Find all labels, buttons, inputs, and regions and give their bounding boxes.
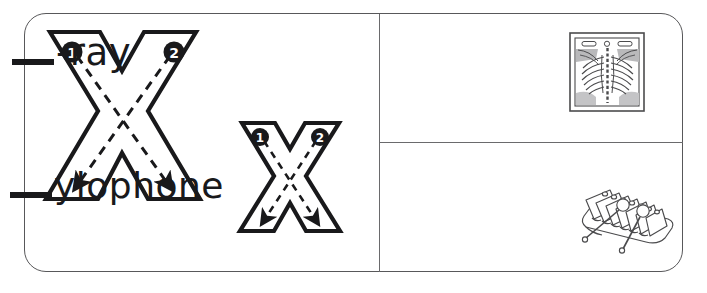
lowercase-stroke-2-marker: 2: [311, 128, 329, 146]
xray-blank-line[interactable]: [12, 59, 54, 65]
xray-word-row: -ray: [12, 34, 131, 71]
xylophone-blank-line[interactable]: [10, 192, 52, 198]
xylophone-word-row: ylophone: [10, 168, 224, 204]
uppercase-stroke-2-marker: 2: [164, 42, 185, 63]
xylophone-word-text: ylophone: [54, 168, 224, 204]
lowercase-stroke-1-number: 1: [256, 131, 264, 145]
worksheet-page: 1 2 1 2: [0, 0, 707, 293]
xylophone-icon: [572, 172, 678, 258]
uppercase-stroke-2-number: 2: [169, 45, 179, 61]
xray-film-icon: [568, 31, 648, 119]
lowercase-stroke-1-marker: 1: [251, 128, 269, 146]
xray-word-text: -ray: [56, 34, 131, 71]
lowercase-stroke-2-number: 2: [316, 131, 324, 145]
